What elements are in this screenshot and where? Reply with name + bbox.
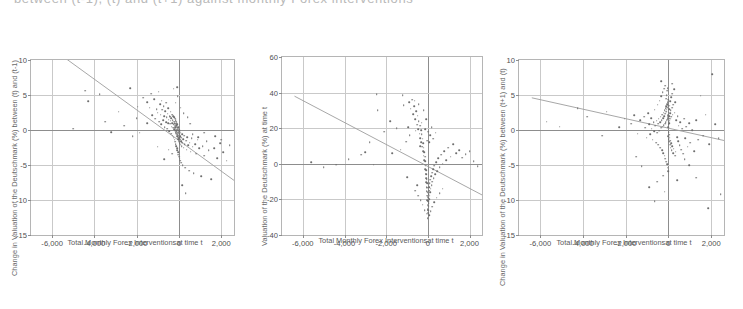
chart-2-data-point: [425, 169, 427, 171]
chart-2-data-point: [415, 119, 417, 121]
chart-3-data-point: [715, 124, 717, 126]
chart-2-data-point: [477, 166, 479, 168]
chart-2-data-point: [310, 161, 312, 163]
chart-2-data-point: [428, 206, 430, 208]
chart-3-data-point: [667, 90, 669, 92]
chart-2-plot-area: -6,000-4,000-2,00002,0006040200-20-40: [281, 56, 483, 236]
chart-3-data-point: [658, 144, 660, 146]
chart-3-data-point: [559, 126, 561, 128]
chart-1-data-point: [157, 112, 159, 114]
chart-3-data-point: [653, 122, 655, 124]
chart-1-plot-wrapper: -6,000-4,000-2,00002,0001050-5-10-15: [30, 59, 235, 236]
chart-3-data-point: [673, 148, 675, 150]
chart-3-data-point: [668, 124, 670, 126]
chart-3-data-point: [670, 96, 672, 98]
chart-3-data-point: [662, 175, 664, 177]
chart-2-data-point: [412, 113, 414, 115]
chart-1-data-point: [193, 173, 195, 175]
chart-2-data-point: [425, 160, 427, 162]
caption-partial-line: between (t-1), (t) and (t+1) against mon…: [14, 0, 413, 6]
chart-2-data-point: [458, 150, 460, 152]
figure-caption-strip: between (t-1), (t) and (t+1) against mon…: [0, 0, 743, 11]
chart-3-data-point: [624, 118, 626, 120]
chart-1-data-point: [182, 164, 184, 166]
chart-1-data-point: [191, 138, 193, 140]
chart-3-data-point: [662, 126, 664, 128]
chart-2-data-point: [408, 102, 410, 104]
chart-3-data-point: [672, 114, 674, 116]
chart-3-data-point: [672, 93, 674, 95]
chart-2-data-point: [376, 94, 378, 96]
chart-3-data-point: [650, 117, 652, 119]
chart-3-data-point: [641, 166, 643, 168]
chart-2-data-point: [429, 195, 431, 197]
chart-2-data-point: [461, 157, 463, 159]
chart-1-data-point: [187, 117, 189, 119]
chart-2-data-point: [422, 143, 424, 145]
chart-3-data-point: [667, 101, 669, 103]
chart-3-data-point: [672, 83, 674, 85]
chart-2-data-point: [430, 188, 432, 190]
chart-3-data-point: [700, 95, 702, 97]
chart-2-data-point: [405, 141, 407, 143]
chart-1-data-point: [156, 108, 158, 110]
chart-1-plot-area: -6,000-4,000-2,00002,0001050-5-10-15: [30, 59, 235, 236]
chart-2-y-tick-label: -20: [267, 195, 278, 204]
chart-1-data-point: [157, 146, 159, 148]
chart-3-data-point: [659, 130, 661, 132]
chart-3-data-point: [669, 105, 671, 107]
chart-1-data-point: [213, 147, 215, 149]
chart-2-data-point: [421, 134, 423, 136]
chart-1-data-point: [99, 94, 101, 96]
chart-1-data-point: [187, 145, 189, 147]
chart-2-data-point: [411, 99, 413, 101]
chart-1-data-point: [200, 175, 202, 177]
chart-3-data-point: [653, 131, 655, 133]
chart-2-data-point: [417, 195, 419, 197]
chart-3-data-point: [659, 122, 661, 124]
chart-1-data-point: [221, 139, 223, 141]
chart-3-data-point: [677, 180, 679, 182]
chart-3-data-point: [689, 164, 691, 166]
chart-3-data-point: [665, 161, 667, 163]
chart-3-data-point: [651, 128, 653, 130]
chart-2-data-point: [433, 177, 435, 179]
chart-2-data-point: [425, 128, 427, 130]
chart-1-data-point: [194, 143, 196, 145]
chart-2-data-point: [420, 199, 422, 201]
chart-3-data-layer: [519, 60, 724, 235]
chart-2-data-point: [421, 122, 423, 124]
chart-1-data-point: [170, 111, 172, 113]
chart-1-data-point: [168, 149, 170, 151]
chart-3-data-point: [670, 118, 672, 120]
chart-2-data-point: [390, 120, 392, 122]
chart-3-data-point: [684, 138, 686, 140]
chart-3-data-point: [587, 116, 589, 118]
chart-3-y-tick-label: 0: [511, 126, 515, 135]
chart-3-data-point: [663, 152, 665, 154]
chart-3-data-point: [679, 145, 681, 147]
chart-3-data-point: [662, 91, 664, 93]
chart-3-data-point: [655, 125, 657, 127]
chart-2-data-point: [402, 94, 404, 96]
chart-2-data-point: [414, 100, 416, 102]
chart-1-data-point: [185, 167, 187, 169]
chart-3-data-point: [671, 116, 673, 118]
chart-3-data-point: [666, 94, 668, 96]
chart-3-data-point: [673, 104, 675, 106]
chart-3-data-point: [646, 137, 648, 139]
chart-2-data-point: [430, 135, 432, 137]
chart-3-data-point: [660, 80, 662, 82]
chart-1-data-point: [206, 140, 208, 142]
chart-3-data-point: [681, 128, 683, 130]
chart-1-data-point: [142, 97, 144, 99]
chart-1-data-point: [169, 116, 171, 118]
chart-2-data-point: [426, 183, 428, 185]
chart-1-trend-line: [31, 60, 234, 235]
chart-2-data-point: [360, 154, 362, 156]
chart-1-data-point: [163, 159, 165, 161]
chart-1-data-point: [152, 115, 154, 117]
chart-2-x-axis-title: Total Monthly Forex Interventionsat time…: [281, 236, 491, 245]
chart-3-data-point: [663, 124, 665, 126]
chart-2-data-point: [432, 168, 434, 170]
